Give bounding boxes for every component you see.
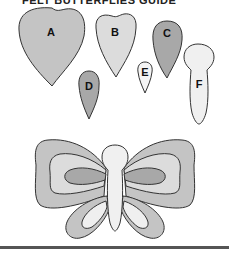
piece-d-label: D xyxy=(85,80,93,92)
piece-b: B xyxy=(96,14,136,77)
bottom-divider xyxy=(0,246,229,249)
piece-a-label: A xyxy=(47,26,55,38)
piece-d: D xyxy=(79,71,99,119)
piece-f: F xyxy=(184,44,214,124)
piece-e: E xyxy=(138,62,152,93)
piece-f-label: F xyxy=(196,78,203,90)
piece-c: C xyxy=(153,21,182,78)
pattern-diagram: A B C D E F xyxy=(0,0,229,254)
assembled-butterfly xyxy=(35,140,194,239)
piece-e-label: E xyxy=(141,66,148,78)
piece-a: A xyxy=(19,8,85,86)
piece-b-label: B xyxy=(111,26,119,38)
piece-c-label: C xyxy=(163,27,171,39)
